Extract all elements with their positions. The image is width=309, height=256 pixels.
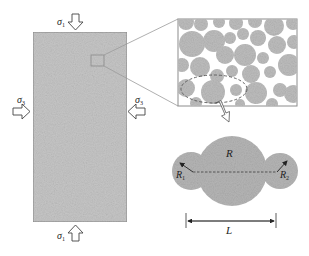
radius-R-label: R <box>225 147 233 159</box>
sigma3-right-label: σ3 <box>135 94 143 106</box>
diagram-canvas: σ1 σ1 σ3 σ3 <box>0 0 309 256</box>
sigma1-bottom-label: σ1 <box>57 230 65 242</box>
length-L-label: L <box>225 224 232 236</box>
load-arrow-left: σ3 <box>13 94 30 119</box>
sigma1-top-label: σ1 <box>57 16 65 28</box>
load-arrow-bottom: σ1 <box>57 225 83 242</box>
load-arrow-top: σ1 <box>57 14 83 30</box>
specimen <box>33 32 127 222</box>
particle-inset <box>175 14 302 110</box>
load-arrow-right: σ3 <box>128 94 145 119</box>
sigma3-left-label: σ3 <box>17 94 25 106</box>
particle-cluster: R R1 R2 <box>172 136 298 206</box>
